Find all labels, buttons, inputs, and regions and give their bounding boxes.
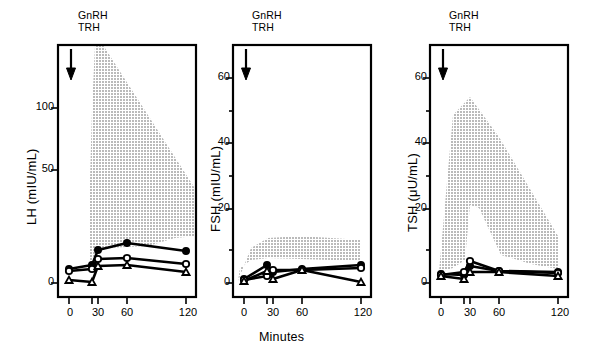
- tsh-normal-range-band: [439, 97, 558, 272]
- tsh-plot-svg: [391, 0, 601, 356]
- lh-stimulus-arrow-icon: [67, 49, 76, 80]
- panel-tsh: GnRH TRH TSH (μU/mL) 60 40 20 0 0 30 60 …: [391, 0, 591, 356]
- fsh-plot-svg: [196, 0, 396, 356]
- lh-series-group: [65, 240, 189, 285]
- hormone-stimulation-figure: GnRH TRH LH (mIU/mL) 100 50 0 0 30 60 12…: [0, 0, 601, 356]
- lh-normal-range-band: [90, 45, 196, 262]
- panel-fsh: GnRH TRH FSH (mIU/mL) 60 40 20 0 0 30 60…: [196, 0, 396, 356]
- fsh-series-group: [240, 262, 364, 285]
- tsh-stimulus-arrow-icon: [439, 49, 448, 80]
- fsh-stimulus-arrow-icon: [242, 49, 251, 80]
- lh-plot-svg: [0, 0, 200, 356]
- panel-lh: GnRH TRH LH (mIU/mL) 100 50 0 0 30 60 12…: [0, 0, 200, 356]
